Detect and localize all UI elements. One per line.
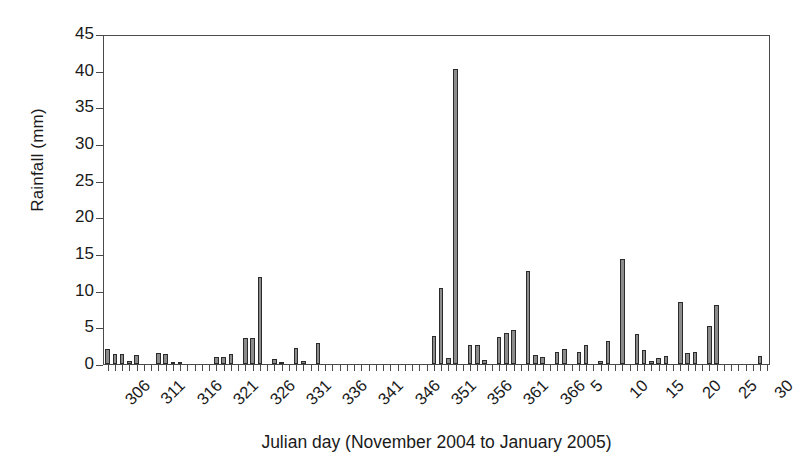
bar — [664, 356, 668, 364]
x-tick-mark — [673, 364, 674, 371]
x-tick-mark — [593, 364, 594, 371]
x-tick-mark — [187, 364, 188, 371]
y-tick-label: 25 — [54, 171, 94, 191]
bar — [606, 341, 610, 364]
x-tick-mark — [637, 364, 638, 371]
bar — [504, 333, 508, 364]
bar — [642, 350, 646, 364]
x-tick-label: 351 — [447, 376, 480, 409]
x-tick-mark — [521, 364, 522, 371]
bar — [105, 349, 109, 364]
x-tick-label: 15 — [662, 376, 688, 402]
x-tick-mark — [405, 364, 406, 371]
bar — [163, 354, 167, 364]
x-tick-mark — [477, 364, 478, 371]
x-tick-label: 361 — [519, 376, 552, 409]
y-tick-mark — [96, 292, 103, 293]
bar — [584, 345, 588, 364]
x-axis-title: Julian day (November 2004 to January 200… — [103, 432, 770, 453]
x-tick-label: 356 — [483, 376, 516, 409]
bar — [250, 338, 254, 364]
x-tick-mark — [209, 364, 210, 371]
x-tick-mark — [702, 364, 703, 371]
x-tick-mark — [615, 364, 616, 371]
x-tick-label: 311 — [157, 376, 189, 408]
bar — [685, 353, 689, 364]
x-tick-mark — [717, 364, 718, 371]
x-tick-mark — [753, 364, 754, 371]
x-tick-mark — [166, 364, 167, 371]
x-tick-mark — [340, 364, 341, 371]
bar — [432, 336, 436, 364]
x-tick-mark — [282, 364, 283, 371]
y-tick-mark — [96, 182, 103, 183]
x-tick-mark — [608, 364, 609, 371]
y-tick-label: 15 — [54, 244, 94, 264]
rainfall-bar-chart: Rainfall (mm) 051015202530354045 3063113… — [0, 0, 803, 472]
y-tick-label: 10 — [54, 281, 94, 301]
x-tick-mark — [216, 364, 217, 371]
x-tick-mark — [318, 364, 319, 371]
x-tick-mark — [760, 364, 761, 371]
x-tick-label: 306 — [121, 376, 154, 409]
x-tick-mark — [115, 364, 116, 371]
x-tick-mark — [441, 364, 442, 371]
x-tick-mark — [463, 364, 464, 371]
y-tick-label: 45 — [54, 24, 94, 44]
x-tick-mark — [202, 364, 203, 371]
y-tick-mark — [96, 145, 103, 146]
x-tick-mark — [260, 364, 261, 371]
x-tick-label: 321 — [229, 376, 262, 409]
x-tick-mark — [651, 364, 652, 371]
x-tick-mark — [564, 364, 565, 371]
y-tick-label: 40 — [54, 61, 94, 81]
x-tick-mark — [601, 364, 602, 371]
bar — [533, 355, 537, 364]
x-tick-mark — [579, 364, 580, 371]
x-tick-mark — [347, 364, 348, 371]
y-tick-mark — [96, 365, 103, 366]
bar — [475, 345, 479, 364]
bar — [453, 69, 457, 364]
x-tick-label: 10 — [626, 376, 652, 402]
x-tick-mark — [376, 364, 377, 371]
bar — [678, 302, 682, 364]
x-tick-mark — [390, 364, 391, 371]
x-tick-label: 366 — [556, 376, 589, 409]
x-tick-mark — [695, 364, 696, 371]
bar — [758, 356, 762, 364]
x-tick-mark — [332, 364, 333, 371]
x-tick-mark — [738, 364, 739, 371]
x-tick-mark — [144, 364, 145, 371]
x-tick-mark — [398, 364, 399, 371]
bar — [714, 305, 718, 364]
bar — [134, 355, 138, 364]
x-tick-mark — [158, 364, 159, 371]
x-tick-mark — [528, 364, 529, 371]
y-tick-label: 0 — [54, 354, 94, 374]
x-tick-mark — [369, 364, 370, 371]
x-tick-mark — [108, 364, 109, 371]
x-tick-mark — [180, 364, 181, 371]
x-tick-mark — [245, 364, 246, 371]
x-tick-mark — [659, 364, 660, 371]
x-tick-mark — [195, 364, 196, 371]
x-tick-label: 336 — [338, 376, 371, 409]
x-tick-label: 5 — [587, 376, 607, 396]
y-tick-mark — [96, 35, 103, 36]
x-tick-mark — [622, 364, 623, 371]
x-tick-mark — [419, 364, 420, 371]
y-tick-mark — [96, 108, 103, 109]
bar — [113, 354, 117, 364]
bar — [526, 271, 530, 364]
x-tick-mark — [767, 364, 768, 371]
x-tick-mark — [680, 364, 681, 371]
x-tick-mark — [535, 364, 536, 371]
x-tick-mark — [274, 364, 275, 371]
x-tick-mark — [383, 364, 384, 371]
bar — [468, 345, 472, 364]
bar — [693, 352, 697, 364]
bar — [577, 352, 581, 364]
bar — [120, 354, 124, 364]
x-tick-mark — [303, 364, 304, 371]
